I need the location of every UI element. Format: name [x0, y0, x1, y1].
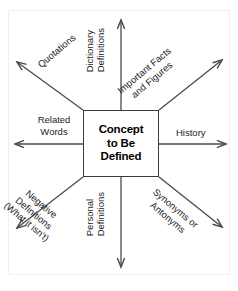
center-line-2: to Be — [107, 137, 135, 151]
center-concept-box: Concept to Be Defined — [83, 110, 159, 177]
label-dictionary-definitions-line-1: Dictionary — [84, 28, 95, 72]
center-line-3: Defined — [101, 150, 142, 164]
center-line-1: Concept — [99, 123, 144, 137]
label-personal-definitions-line-2: Definitions — [95, 192, 106, 236]
label-history-line-1: History — [176, 128, 206, 139]
label-history: History — [176, 128, 206, 139]
label-related-words-line-2: Words — [28, 126, 80, 138]
label-personal-definitions: Personal Definitions — [84, 192, 106, 236]
label-related-words: Related Words — [28, 114, 80, 138]
label-dictionary-definitions-line-2: Definitions — [95, 28, 106, 72]
concept-diagram: Concept to Be Defined Dictionary Definit… — [0, 0, 238, 291]
arrow-up-left — [17, 62, 83, 110]
label-personal-definitions-line-1: Personal — [84, 192, 95, 236]
label-related-words-line-1: Related — [28, 114, 80, 126]
label-dictionary-definitions: Dictionary Definitions — [84, 28, 106, 72]
